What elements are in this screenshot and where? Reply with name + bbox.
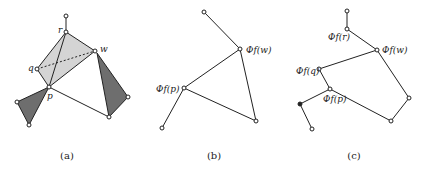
label-q: q (28, 63, 34, 73)
label-phi-p-c: Φf(p) (323, 94, 347, 104)
label-phi-w-c: Φf(w) (382, 45, 408, 55)
label-phi-q: Φf(q) (296, 66, 320, 76)
label-w: w (100, 44, 108, 54)
label-r: r (58, 25, 63, 35)
label-phi-w: Φf(w) (246, 45, 272, 55)
caption-a: (a) (60, 150, 74, 161)
caption-c: (c) (347, 150, 361, 161)
label-phi-p: Φf(p) (156, 84, 180, 94)
label-p: p (47, 91, 53, 101)
label-phi-r: Φf(r) (328, 32, 351, 42)
figure: r w q p Φf(w) Φf(p) Φf(r) Φf(w) Φf(q) Φf… (0, 0, 423, 169)
caption-b: (b) (207, 150, 221, 161)
panel-b (160, 10, 258, 130)
